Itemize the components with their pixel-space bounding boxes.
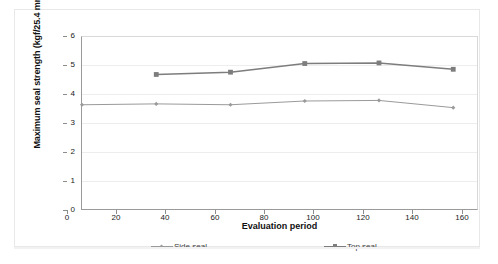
series-line — [82, 100, 453, 107]
data-series-layer — [82, 37, 478, 210]
square-marker-icon — [451, 67, 456, 72]
plot-area — [81, 36, 478, 210]
bottom-edge-shadow — [14, 247, 480, 249]
square-marker-icon — [154, 72, 159, 77]
y-tick-label: 2 — [59, 148, 75, 156]
y-tick-mark — [63, 123, 67, 124]
y-tick-mark — [63, 36, 67, 37]
y-tick-mark — [63, 65, 67, 66]
y-tick-label: 4 — [59, 90, 75, 98]
chart-screenshot: Maximum seal strength (kgf/25.4 mm) Eval… — [0, 0, 498, 264]
y-tick-mark — [63, 181, 67, 182]
series-side-seal — [80, 98, 455, 109]
x-tick-label: 140 — [400, 213, 424, 222]
y-tick-label: 6 — [59, 32, 75, 40]
y-axis-title: Maximum seal strength (kgf/25.4 mm) — [32, 0, 42, 155]
x-tick-label: 20 — [104, 213, 128, 222]
x-tick-label: 120 — [351, 213, 375, 222]
x-tick-label: 100 — [301, 213, 325, 222]
series-top-seal — [154, 61, 456, 77]
x-tick-label: 60 — [203, 213, 227, 222]
square-marker-icon — [377, 61, 382, 66]
square-marker-icon — [302, 61, 307, 66]
x-tick-label: 0 — [55, 213, 79, 222]
y-tick-label: 3 — [59, 119, 75, 127]
chart-legend: Side seal Top seal — [81, 242, 478, 256]
y-tick-mark — [63, 94, 67, 95]
chart-frame: Maximum seal strength (kgf/25.4 mm) Eval… — [14, 9, 480, 247]
diamond-marker-icon — [451, 106, 455, 110]
x-tick-label: 80 — [252, 213, 276, 222]
diamond-marker-icon — [154, 102, 158, 106]
diamond-marker-icon — [303, 99, 307, 103]
y-tick-mark — [63, 152, 67, 153]
y-tick-label: 1 — [59, 177, 75, 185]
diamond-marker-icon — [228, 103, 232, 107]
x-tick-label: 160 — [450, 213, 474, 222]
y-tick-label: 5 — [59, 61, 75, 69]
diamond-marker-icon — [377, 98, 381, 102]
x-axis-title: Evaluation period — [81, 221, 478, 231]
diamond-marker-icon — [80, 103, 84, 107]
x-tick-label: 40 — [153, 213, 177, 222]
square-marker-icon — [228, 70, 233, 75]
